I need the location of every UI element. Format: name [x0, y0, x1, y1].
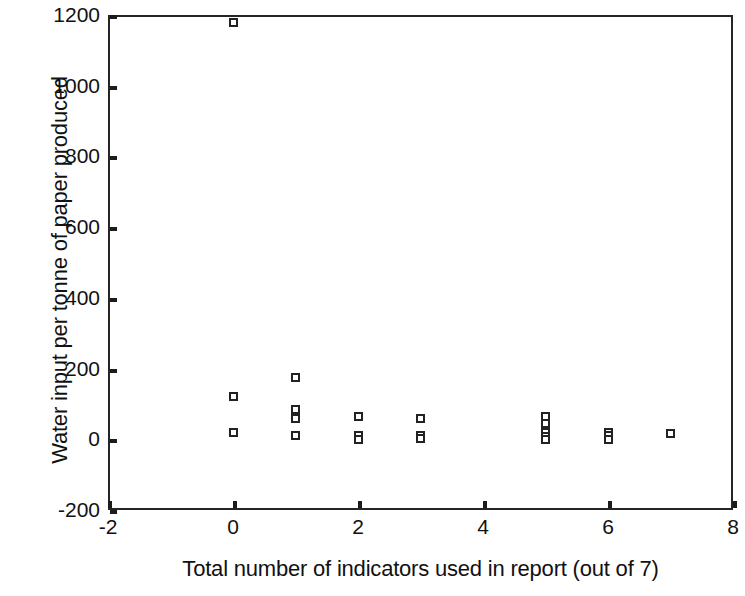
- data-point: [291, 373, 300, 382]
- data-point: [229, 428, 238, 437]
- data-point: [541, 435, 550, 444]
- x-axis-title: Total number of indicators used in repor…: [108, 556, 733, 582]
- data-point: [354, 412, 363, 421]
- y-tick: [110, 156, 117, 160]
- x-tick: [483, 501, 487, 508]
- x-tick-label: 2: [318, 516, 398, 537]
- y-tick-label: 0: [8, 428, 100, 449]
- x-tick: [358, 501, 362, 508]
- y-tick-label: 400: [8, 287, 100, 308]
- y-tick: [110, 86, 117, 90]
- y-tick: [110, 439, 117, 443]
- y-tick: [110, 369, 117, 373]
- y-tick: [110, 227, 117, 231]
- data-point: [291, 405, 300, 414]
- x-tick: [233, 501, 237, 508]
- y-tick-label: 800: [8, 145, 100, 166]
- data-point: [354, 435, 363, 444]
- x-tick-label: 4: [443, 516, 523, 537]
- data-point: [666, 429, 675, 438]
- x-tick-label: 0: [193, 516, 273, 537]
- x-tick-label: 8: [693, 516, 745, 537]
- y-tick: [110, 510, 117, 514]
- x-tick: [733, 501, 737, 508]
- data-point: [291, 414, 300, 423]
- y-tick-label: 200: [8, 358, 100, 379]
- x-tick: [108, 501, 112, 508]
- data-point: [229, 18, 238, 27]
- x-tick-label: -2: [68, 516, 148, 537]
- data-point: [291, 431, 300, 440]
- x-tick: [608, 501, 612, 508]
- y-tick: [110, 15, 117, 19]
- y-tick: [110, 298, 117, 302]
- data-point: [416, 434, 425, 443]
- data-point: [229, 392, 238, 401]
- x-tick-label: 6: [568, 516, 648, 537]
- y-tick-label: 1000: [8, 75, 100, 96]
- data-point: [416, 414, 425, 423]
- scatter-chart-figure: Water input per tonne of paper produced …: [0, 0, 745, 596]
- data-point: [604, 435, 613, 444]
- data-point: [541, 419, 550, 428]
- y-tick-label: 600: [8, 216, 100, 237]
- y-tick-label: 1200: [8, 4, 100, 25]
